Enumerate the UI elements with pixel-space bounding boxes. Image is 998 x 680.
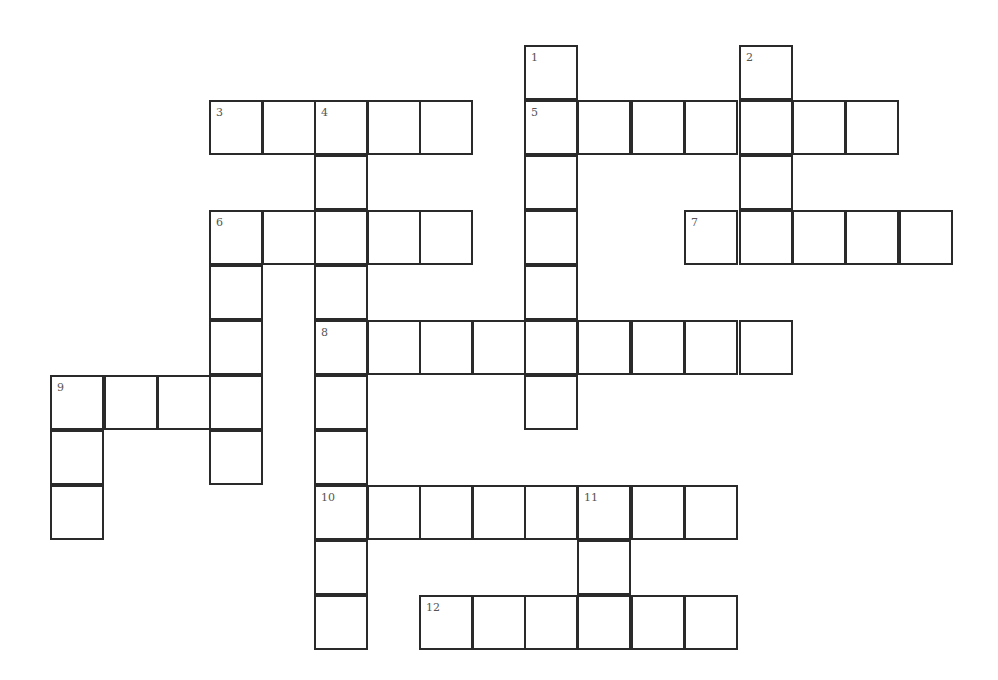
crossword-cell[interactable] xyxy=(739,320,793,375)
crossword-cell[interactable] xyxy=(631,100,685,155)
crossword-cell[interactable] xyxy=(419,485,473,540)
clue-number: 6 xyxy=(216,217,223,228)
crossword-cell[interactable] xyxy=(367,320,421,375)
crossword-cell[interactable] xyxy=(157,375,211,430)
crossword-cell[interactable] xyxy=(524,265,578,320)
crossword-cell[interactable] xyxy=(209,265,263,320)
crossword-cell[interactable] xyxy=(739,100,793,155)
crossword-cell[interactable] xyxy=(631,485,685,540)
clue-number: 4 xyxy=(321,107,328,118)
crossword-cell[interactable] xyxy=(524,155,578,210)
crossword-cell[interactable] xyxy=(472,485,526,540)
crossword-cell[interactable] xyxy=(792,100,846,155)
crossword-cell[interactable] xyxy=(577,100,631,155)
crossword-cell[interactable] xyxy=(262,100,316,155)
crossword-cell[interactable] xyxy=(314,155,368,210)
crossword-cell[interactable] xyxy=(367,210,421,265)
crossword-cell[interactable]: 10 xyxy=(314,485,368,540)
crossword-grid: 152348106791112 xyxy=(0,0,998,680)
clue-number: 5 xyxy=(531,107,538,118)
crossword-cell[interactable] xyxy=(524,485,578,540)
clue-number: 1 xyxy=(531,52,538,63)
clue-number: 7 xyxy=(691,217,698,228)
crossword-cell[interactable] xyxy=(739,210,793,265)
crossword-cell[interactable] xyxy=(577,540,631,595)
crossword-cell[interactable] xyxy=(524,375,578,430)
crossword-cell[interactable] xyxy=(209,430,263,485)
crossword-cell[interactable] xyxy=(314,430,368,485)
crossword-cell[interactable] xyxy=(104,375,158,430)
clue-number: 2 xyxy=(746,52,753,63)
clue-number: 10 xyxy=(321,492,335,503)
clue-number: 3 xyxy=(216,107,223,118)
clue-number: 9 xyxy=(57,382,64,393)
crossword-cell[interactable] xyxy=(899,210,953,265)
crossword-cell[interactable]: 7 xyxy=(684,210,738,265)
crossword-cell[interactable] xyxy=(524,595,578,650)
crossword-cell[interactable] xyxy=(50,430,104,485)
crossword-cell[interactable] xyxy=(419,210,473,265)
crossword-cell[interactable] xyxy=(631,595,685,650)
crossword-cell[interactable]: 12 xyxy=(419,595,473,650)
crossword-cell[interactable]: 9 xyxy=(50,375,104,430)
crossword-cell[interactable] xyxy=(684,595,738,650)
crossword-cell[interactable]: 5 xyxy=(524,100,578,155)
crossword-cell[interactable] xyxy=(792,210,846,265)
crossword-cell[interactable] xyxy=(577,320,631,375)
crossword-cell[interactable] xyxy=(845,210,899,265)
crossword-cell[interactable]: 1 xyxy=(524,45,578,100)
crossword-cell[interactable]: 8 xyxy=(314,320,368,375)
crossword-cell[interactable] xyxy=(314,265,368,320)
crossword-cell[interactable] xyxy=(419,100,473,155)
crossword-cell[interactable]: 6 xyxy=(209,210,263,265)
crossword-cell[interactable] xyxy=(739,155,793,210)
crossword-cell[interactable] xyxy=(524,320,578,375)
crossword-cell[interactable] xyxy=(314,595,368,650)
crossword-cell[interactable] xyxy=(314,210,368,265)
crossword-cell[interactable]: 11 xyxy=(577,485,631,540)
clue-number: 12 xyxy=(426,602,440,613)
crossword-cell[interactable] xyxy=(524,210,578,265)
crossword-cell[interactable] xyxy=(262,210,316,265)
crossword-cell[interactable] xyxy=(419,320,473,375)
crossword-cell[interactable] xyxy=(314,540,368,595)
crossword-cell[interactable] xyxy=(472,595,526,650)
crossword-cell[interactable] xyxy=(577,595,631,650)
clue-number: 11 xyxy=(584,492,598,503)
crossword-cell[interactable] xyxy=(209,320,263,375)
clue-number: 8 xyxy=(321,327,328,338)
crossword-cell[interactable]: 3 xyxy=(209,100,263,155)
crossword-cell[interactable] xyxy=(684,320,738,375)
crossword-cell[interactable] xyxy=(367,100,421,155)
crossword-cell[interactable] xyxy=(209,375,263,430)
crossword-cell[interactable] xyxy=(684,485,738,540)
crossword-cell[interactable] xyxy=(631,320,685,375)
crossword-cell[interactable] xyxy=(367,485,421,540)
crossword-cell[interactable] xyxy=(314,375,368,430)
crossword-cell[interactable] xyxy=(472,320,526,375)
crossword-cell[interactable] xyxy=(845,100,899,155)
crossword-cell[interactable]: 4 xyxy=(314,100,368,155)
crossword-cell[interactable] xyxy=(684,100,738,155)
crossword-cell[interactable] xyxy=(50,485,104,540)
crossword-cell[interactable]: 2 xyxy=(739,45,793,100)
